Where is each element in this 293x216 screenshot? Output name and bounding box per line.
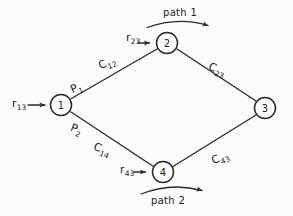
input-label-r23-sub: 23 (131, 37, 141, 46)
edge-1-to-4 (71, 112, 154, 167)
input-label-r13-sub: 13 (17, 103, 27, 112)
node-4-label: 4 (160, 167, 166, 178)
input-label-r43: r43 (120, 164, 134, 178)
diagram-canvas: 1 2 3 4 (0, 0, 293, 216)
path-2-label: path 2 (151, 196, 185, 206)
input-label-r43-sub: 43 (125, 169, 135, 178)
node-3-label: 3 (262, 103, 268, 114)
path-1-label: path 1 (163, 8, 197, 18)
path-2-arc-arrow (141, 187, 202, 194)
node-1-label: 1 (58, 100, 64, 111)
input-label-r23: r23 (126, 32, 140, 46)
network-flow-diagram: 1 2 3 4 path 1 path 2 r13 r23 r43 C12 P1… (0, 0, 293, 216)
path-1-arc-arrow (147, 21, 208, 27)
node-2-label: 2 (164, 38, 170, 49)
input-label-r13: r13 (12, 98, 26, 112)
